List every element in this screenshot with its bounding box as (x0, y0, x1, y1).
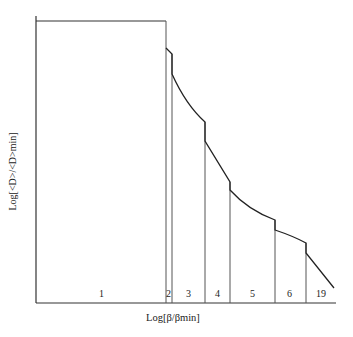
region-label-2: 2 (166, 288, 171, 299)
x-axis-label: Log[β/βmin] (146, 312, 200, 323)
region-label-4: 4 (215, 288, 220, 299)
region-label-1: 1 (99, 288, 104, 299)
region-label-3: 3 (186, 288, 191, 299)
region-dividers (166, 21, 306, 303)
region-label-5: 5 (250, 288, 255, 299)
decay-curve (166, 48, 334, 288)
region-label-6: 6 (287, 288, 292, 299)
y-axis-label: Log[<D>/<D>min] (7, 112, 18, 232)
region-label-19: 19 (316, 288, 326, 299)
diagram-canvas (0, 0, 353, 337)
